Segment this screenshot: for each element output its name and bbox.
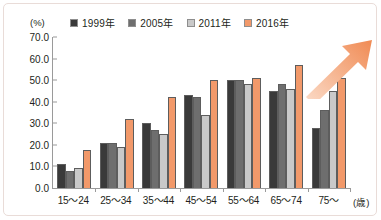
bar: [235, 80, 244, 188]
y-tick-label: 30.0: [30, 118, 53, 129]
bar: [295, 65, 304, 188]
bar-groups: [53, 37, 350, 188]
bar: [244, 84, 253, 188]
plot-area: 70.060.050.040.030.020.010.00.0: [52, 37, 350, 189]
x-tick-label: 55～64: [222, 192, 265, 206]
bar: [286, 89, 295, 188]
bar-group: [308, 37, 350, 188]
legend-swatch: [187, 19, 195, 27]
y-tick-label: 0.0: [35, 183, 53, 194]
x-tick-mark: [350, 188, 351, 192]
chart-frame: (%) (歳) 1999年2005年2011年2016年 70.060.050.…: [3, 3, 377, 216]
x-axis-labels: 15～2425～3435～4445～5455～6465～7475～: [52, 192, 350, 206]
bar: [252, 78, 261, 188]
y-tick-label: 70.0: [30, 32, 53, 43]
bar-group: [138, 37, 180, 188]
bar: [74, 168, 83, 188]
bar-group: [180, 37, 222, 188]
bar: [184, 95, 193, 188]
x-tick-label: 65～74: [265, 192, 308, 206]
y-tick-label: 20.0: [30, 139, 53, 150]
bar: [329, 91, 338, 188]
legend-item: 2011年: [187, 15, 232, 30]
legend-item: 1999年: [70, 15, 115, 30]
legend-item: 2005年: [128, 15, 173, 30]
y-tick-label: 40.0: [30, 96, 53, 107]
bar: [83, 150, 92, 188]
bar-group: [223, 37, 265, 188]
bar-group: [53, 37, 95, 188]
y-tick-label: 60.0: [30, 53, 53, 64]
bar-group: [95, 37, 137, 188]
legend-swatch: [128, 19, 136, 27]
bar: [210, 80, 219, 188]
bar: [125, 119, 134, 188]
x-tick-label: 15～24: [52, 192, 95, 206]
bar: [337, 78, 346, 188]
bar: [66, 171, 75, 188]
bar: [159, 134, 168, 188]
bar: [312, 128, 321, 188]
bar-group: [265, 37, 307, 188]
bar: [278, 84, 287, 188]
y-tick-label: 10.0: [30, 161, 53, 172]
bar: [142, 123, 151, 188]
legend-swatch: [244, 19, 252, 27]
bar: [100, 143, 109, 188]
legend-label: 2016年: [256, 15, 289, 30]
legend-swatch: [70, 19, 78, 27]
chart-legend: 1999年2005年2011年2016年: [70, 15, 289, 30]
legend-label: 1999年: [82, 15, 115, 30]
x-tick-label: 75～: [307, 192, 350, 206]
legend-label: 2005年: [140, 15, 173, 30]
x-axis-unit-label: (歳): [353, 195, 369, 209]
bar: [117, 147, 126, 188]
y-axis-unit-label: (%): [30, 17, 45, 28]
y-tick-label: 50.0: [30, 75, 53, 86]
bar: [269, 91, 278, 188]
bar: [151, 130, 160, 188]
x-tick-label: 45～54: [180, 192, 223, 206]
bar: [201, 115, 210, 188]
bar: [227, 80, 236, 188]
x-tick-label: 25～34: [95, 192, 138, 206]
legend-label: 2011年: [199, 15, 232, 30]
bar: [193, 97, 202, 188]
x-tick-label: 35～44: [137, 192, 180, 206]
bar: [57, 164, 66, 188]
legend-item: 2016年: [244, 15, 289, 30]
bar: [320, 110, 329, 188]
bar: [108, 143, 117, 188]
bar: [168, 97, 177, 188]
